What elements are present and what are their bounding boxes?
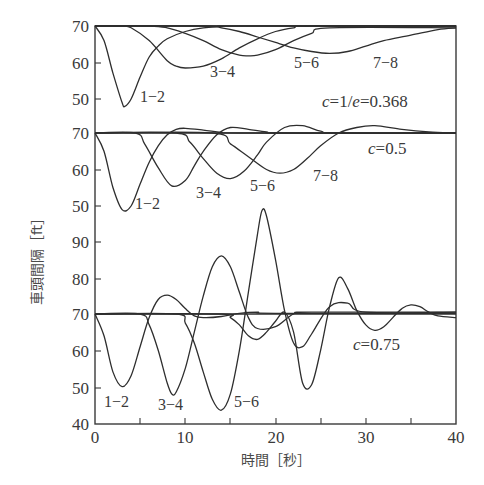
x-axis-title: 時間［秒］ <box>241 452 311 468</box>
y-tick-label: 60 <box>72 342 89 361</box>
c-value-label-panel-3: c=0.75 <box>353 335 400 354</box>
c-value-label-panel-1: c=1/e=0.368 <box>322 92 408 111</box>
y-axis-ticks <box>95 63 101 388</box>
car-following-headway-chart: 70 60 50 70 60 50 90 80 70 60 50 40 0 10… <box>0 0 484 485</box>
curve-label-3-4: 3−4 <box>158 396 183 413</box>
curve-label-3-4: 3−4 <box>196 184 221 201</box>
curve-group <box>95 26 456 410</box>
y-tick-label: 70 <box>72 124 89 143</box>
c-value-label-panel-2: c=0.5 <box>368 139 406 158</box>
x-tick-label: 40 <box>448 428 465 447</box>
curve-label-1-2: 1−2 <box>104 393 129 410</box>
curve-label-7-8: 7−8 <box>313 167 338 184</box>
y-tick-label: 90 <box>72 233 89 252</box>
y-tick-label: 60 <box>72 54 89 73</box>
y-axis-title: 車頭間隔［ft］ <box>29 211 45 305</box>
y-tick-label: 60 <box>72 161 89 180</box>
curve-label-1-2: 1−2 <box>140 88 165 105</box>
x-tick-label: 10 <box>177 428 194 447</box>
x-axis-ticks <box>140 418 411 424</box>
curve-label-1-2: 1−2 <box>135 195 160 212</box>
y-tick-label: 50 <box>72 197 89 216</box>
curve-label-7-8: 7−8 <box>373 54 398 71</box>
plot-frame <box>95 26 456 424</box>
y-tick-label: 50 <box>72 90 89 109</box>
x-axis-tick-labels: 0 10 20 30 40 <box>91 428 465 447</box>
curve-5-6-panel-3 <box>95 209 456 411</box>
y-tick-label: 40 <box>72 415 89 434</box>
y-tick-label: 70 <box>72 17 89 36</box>
curve-label-5-6: 5−6 <box>294 54 319 71</box>
curve-label-5-6: 5−6 <box>234 393 259 410</box>
y-tick-label: 50 <box>72 379 89 398</box>
x-tick-label: 0 <box>91 428 100 447</box>
curve-7-8-panel-3 <box>95 277 456 389</box>
curve-3-4-panel-1 <box>95 26 456 68</box>
x-tick-label: 30 <box>358 428 375 447</box>
y-tick-label: 80 <box>72 270 89 289</box>
curve-label-5-6: 5−6 <box>250 177 275 194</box>
curve-label-3-4: 3−4 <box>210 63 235 80</box>
y-tick-label: 70 <box>72 305 89 324</box>
curve-3-4-panel-3 <box>95 256 456 395</box>
y-axis-tick-labels: 70 60 50 70 60 50 90 80 70 60 50 40 <box>72 17 89 434</box>
x-tick-label: 20 <box>268 428 285 447</box>
